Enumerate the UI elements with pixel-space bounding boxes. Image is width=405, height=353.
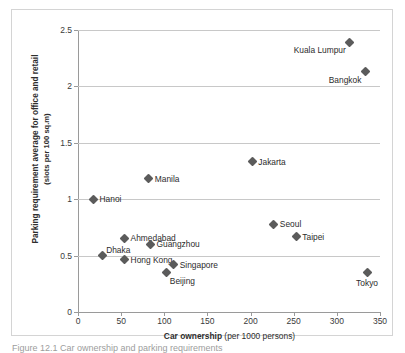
x-tick-label: 150 [192, 316, 222, 326]
data-point-label: Singapore [180, 261, 218, 270]
y-axis-title: Parking requirement average for office a… [30, 34, 52, 264]
x-axis-line [78, 312, 381, 313]
plot-area: HanoiDhakaHong KongAhmedabadManilaGuangz… [78, 30, 380, 312]
diamond-marker-icon [120, 233, 130, 243]
y-tick-mark [74, 199, 78, 200]
x-axis-title-main: Car ownership [164, 331, 222, 341]
data-point-label: Bangkok [329, 76, 362, 85]
diamond-marker-icon [345, 37, 355, 47]
x-tick-label: 50 [106, 316, 136, 326]
y-axis-title-main: Parking requirement average for office a… [31, 55, 40, 244]
data-point-label: Guangzhou [156, 240, 199, 249]
gridline [78, 143, 380, 144]
diamond-marker-icon [291, 232, 301, 242]
y-tick-mark [74, 30, 78, 31]
diamond-marker-icon [362, 268, 372, 278]
y-tick-label-text: 0.5 [60, 252, 72, 261]
y-tick-mark [74, 256, 78, 257]
y-tick-label-text: 2 [67, 82, 72, 91]
x-axis-title: Car ownership (per 1000 persons) [78, 331, 381, 341]
x-tick-label: 300 [322, 316, 352, 326]
y-tick-label: 2 [50, 82, 72, 91]
gridline [78, 199, 380, 200]
data-point-label: Seoul [280, 220, 301, 229]
y-tick-label: 2.5 [50, 26, 72, 35]
y-tick-label-text: 2.5 [60, 26, 72, 35]
x-tick-label: 0 [63, 316, 93, 326]
diamond-marker-icon [247, 157, 257, 167]
diamond-marker-icon [269, 219, 279, 229]
data-point-label: Dhaka [106, 246, 130, 255]
data-point-label: Jakarta [258, 158, 285, 167]
data-point-label: Tokyo [356, 279, 378, 288]
y-tick-label-text: 1.5 [60, 139, 72, 148]
y-tick-label: 1 [50, 195, 72, 204]
figure-container: Parking requirement average for office a… [0, 0, 405, 353]
y-tick-label-text: 1 [67, 195, 72, 204]
x-axis-title-units: (per 1000 persons) [224, 331, 295, 341]
diamond-marker-icon [360, 67, 370, 77]
data-point-label: Kuala Lumpur [294, 46, 346, 55]
data-point-label: Taipei [302, 233, 324, 242]
x-tick-label: 350 [365, 316, 395, 326]
x-tick-label: 100 [149, 316, 179, 326]
diamond-marker-icon [89, 194, 99, 204]
x-tick-label: 200 [236, 316, 266, 326]
y-tick-label: 0.5 [50, 252, 72, 261]
data-point-label: Hong Kong [131, 256, 173, 265]
gridline [78, 86, 380, 87]
data-point-label: Beijing [170, 277, 195, 286]
gridline [78, 30, 380, 31]
diamond-marker-icon [144, 174, 154, 184]
y-tick-mark [74, 143, 78, 144]
diamond-marker-icon [169, 260, 179, 270]
y-tick-mark [74, 86, 78, 87]
data-point-label: Manila [155, 175, 180, 184]
chart-frame: Parking requirement average for office a… [11, 9, 393, 336]
x-tick-label: 250 [279, 316, 309, 326]
data-point-label: Hanoi [100, 195, 122, 204]
y-axis-title-sub: (slots per 100 sq.m) [42, 113, 51, 184]
figure-caption: Figure 12.1 Car ownership and parking re… [12, 343, 223, 353]
y-tick-label: 1.5 [50, 139, 72, 148]
